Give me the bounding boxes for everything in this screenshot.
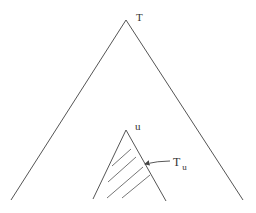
- label-T-u: Tu: [173, 155, 187, 172]
- label-u: u: [135, 120, 141, 132]
- small-triangle-u: [93, 130, 166, 201]
- big-triangle-T: [11, 20, 243, 200]
- label-T-u-subscript: u: [182, 162, 187, 172]
- pointer-arrow: [145, 161, 170, 164]
- label-T: T: [136, 11, 143, 23]
- label-T-u-main: T: [173, 155, 181, 169]
- tree-diagram: T u Tu: [0, 0, 256, 213]
